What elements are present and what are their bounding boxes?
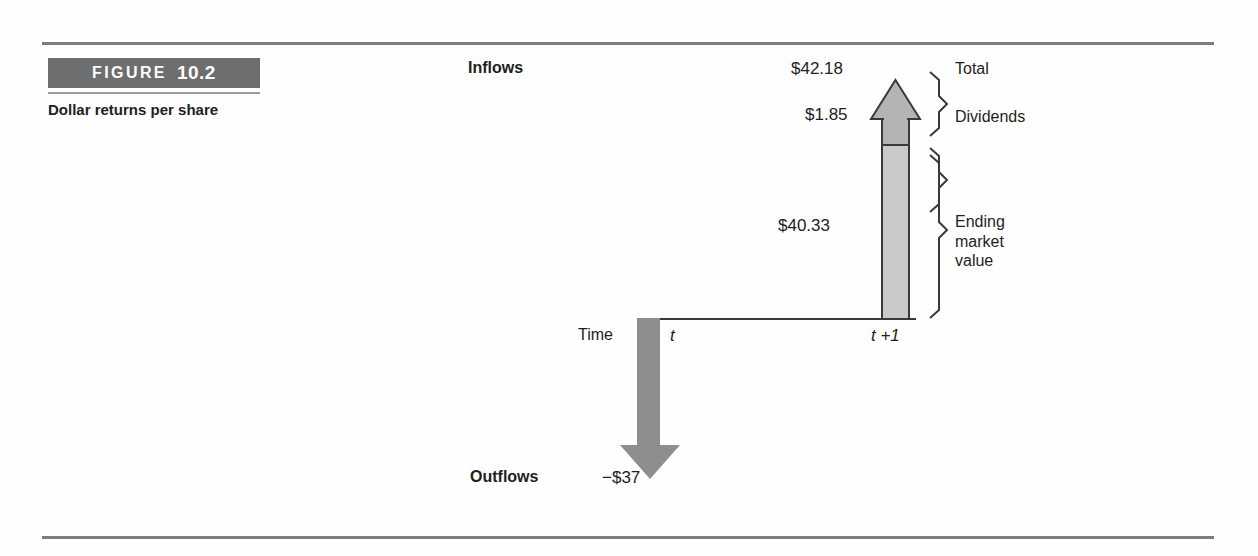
figure-tag-word: FIGURE — [92, 64, 167, 82]
inflows-heading: Inflows — [468, 59, 523, 77]
timeline-tick-t: t — [670, 326, 675, 346]
inflow-shaft-ending-market-value — [882, 145, 909, 319]
bracket-label-dividends: Dividends — [955, 107, 1025, 127]
ending-market-value-label: $40.33 — [778, 216, 830, 236]
bracket-label-emv-line2: market — [955, 232, 1005, 252]
dividends-value-label: $1.85 — [805, 105, 848, 125]
inflow-arrow-head-seam — [884, 117, 907, 121]
bracket-label-ending-market-value: Ending market value — [955, 212, 1005, 271]
total-value-label: $42.18 — [791, 59, 843, 79]
timeline-axis-label: Time — [578, 326, 613, 344]
brace-ending-market-value — [930, 155, 947, 318]
outflow-shaft — [637, 318, 660, 445]
outflow-value-label: −$37 — [602, 468, 640, 488]
outflows-heading: Outflows — [470, 468, 538, 486]
bracket-label-total: Total — [955, 59, 989, 79]
timeline-axis — [648, 318, 916, 320]
figure-caption: Dollar returns per share — [48, 100, 248, 120]
timeline-tick-t-plus-1: t +1 — [871, 326, 900, 346]
bottom-rule — [42, 536, 1214, 539]
figure-tag-underline — [48, 92, 260, 94]
brace-total — [930, 72, 947, 136]
top-rule — [42, 42, 1214, 45]
bracket-label-emv-line1: Ending — [955, 212, 1005, 232]
bracket-label-emv-line3: value — [955, 251, 1005, 271]
inflow-shaft-dividends — [882, 118, 909, 145]
brace-dividends — [930, 148, 947, 212]
figure-tag-number: 10.2 — [177, 62, 216, 84]
figure-page: FIGURE 10.2 Dollar returns per share Inf… — [0, 0, 1258, 556]
inflow-arrow-head — [871, 80, 920, 119]
figure-tag: FIGURE 10.2 — [48, 58, 260, 88]
